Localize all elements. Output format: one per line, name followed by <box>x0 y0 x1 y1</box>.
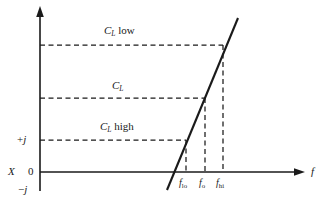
y-axis-label: X <box>8 166 15 177</box>
f-lo-tick-label: flo <box>179 178 187 190</box>
cl-low-suffix: low <box>118 24 135 36</box>
cl-high-subscript: L <box>107 125 111 134</box>
cl-high-label: CL high <box>100 121 134 134</box>
x-axis-label: f <box>311 166 314 177</box>
reactance-frequency-figure: X 0 +j −j f CL low CL CL high flo fo fhi <box>0 0 326 209</box>
cl-low-subscript: L <box>111 29 115 38</box>
f-lo-subscript: lo <box>182 182 187 189</box>
negative-j-tick-label: −j <box>18 184 27 195</box>
figure-canvas <box>0 0 326 209</box>
cl-high-suffix: high <box>114 120 134 132</box>
f-o-subscript: o <box>202 182 205 189</box>
y-axis-arrowhead <box>36 6 44 17</box>
negative-j-letter: j <box>24 183 27 195</box>
cl-mid-subscript: L <box>119 84 123 93</box>
f-hi-subscript: hi <box>219 182 224 189</box>
crystal-reactance-line <box>167 18 238 190</box>
positive-j-tick-label: +j <box>17 134 26 145</box>
origin-label: 0 <box>28 166 34 177</box>
f-hi-tick-label: fhi <box>216 178 224 190</box>
cl-mid-label: CL <box>112 80 124 93</box>
f-o-tick-label: fo <box>199 178 205 190</box>
x-axis-arrowhead <box>294 168 305 176</box>
positive-j-letter: j <box>23 133 26 145</box>
cl-low-label: CL low <box>104 25 135 38</box>
